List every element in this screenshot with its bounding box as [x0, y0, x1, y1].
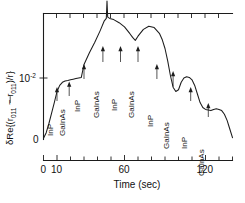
- annotation-label-gainas-3: GaInAs: [127, 91, 136, 118]
- annotation-label-inp-5: InP: [180, 137, 189, 149]
- y-title-suba-index: 011: [10, 107, 17, 118]
- ras-signal-curve: [44, 1, 233, 138]
- y-tick-label-decade: 10-2: [19, 72, 36, 84]
- annotation-label-gainas-2: GaInAs: [92, 91, 101, 118]
- annotation-label-inp-3: InP: [110, 99, 119, 111]
- x-tick-label-0: 0: [41, 164, 47, 175]
- y-tick-exponent: -2: [30, 72, 36, 79]
- annotation-label-gainas-1: GaInAs: [58, 109, 67, 136]
- arrow-gainas-2: [101, 46, 105, 62]
- top-tick-marks: [57, 14, 219, 19]
- y-tick-labels: 10-2 0: [19, 72, 39, 145]
- arrow-gainas-1: [67, 82, 71, 97]
- x-axis-title: Time (sec): [114, 179, 161, 190]
- y-axis-title: δRe{(r011 − r011)/r}: [4, 71, 17, 145]
- annotation-label-gainas-4: GaInAs: [162, 122, 171, 149]
- y-title-subb-index: 011: [10, 83, 17, 94]
- arrow-inp-4: [155, 64, 159, 79]
- chart-canvas: InP GaInAs InP GaInAs InP GaInAs InP GaI…: [0, 0, 245, 203]
- arrow-gainas-3: [136, 46, 140, 62]
- x-tick-labels: 0 10 60 120: [41, 164, 214, 175]
- x-tick-label-120: 120: [197, 164, 214, 175]
- ras-transient-figure: InP GaInAs InP GaInAs InP GaInAs InP GaI…: [0, 0, 245, 203]
- y-title-tail: )/r: [4, 74, 15, 83]
- y-title-close: }: [4, 71, 15, 74]
- y-title-prefix: δRe: [4, 128, 15, 145]
- arrow-inp-3: [118, 46, 122, 62]
- x-tick-label-60: 60: [119, 164, 131, 175]
- annotation-label-inp-4: InP: [146, 115, 155, 127]
- x-tick-label-10: 10: [51, 164, 63, 175]
- annotation-label-inp-2: InP: [73, 100, 82, 112]
- y-tick-label-zero: 0: [33, 134, 39, 145]
- y-tick-base: 10: [19, 73, 31, 84]
- arrow-inp-5: [189, 87, 193, 101]
- annotation-label-inp-1: InP: [46, 124, 55, 136]
- y-title-minus: − r: [4, 94, 15, 108]
